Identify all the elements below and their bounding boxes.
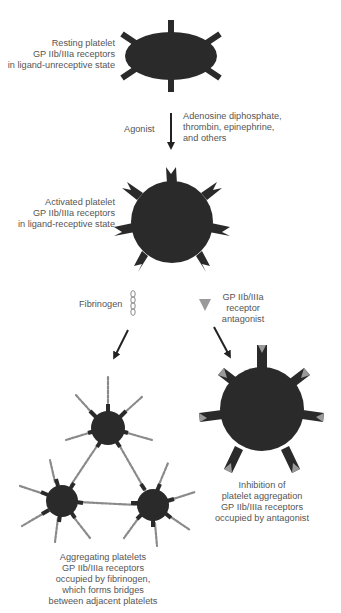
inhibited-platelet — [199, 345, 324, 473]
resting-platelet-label: Resting platelet GP IIb/IIIa receptors i… — [8, 38, 115, 71]
antagonist-arrow — [214, 327, 229, 355]
fibrinogen-arrow — [115, 330, 128, 356]
inhibition-label: Inhibition of platelet aggregation GP II… — [212, 480, 312, 524]
fibrinogen-label: Fibrinogen — [79, 299, 122, 310]
activated-platelet — [114, 167, 230, 272]
antagonist-label: GP IIb/IIIa receptor antagonist — [218, 292, 268, 325]
aggregating-platelets — [20, 377, 195, 546]
chain-links-icon — [131, 291, 135, 316]
aggregating-platelets-label: Aggregating platelets GP IIb/IIIa recept… — [38, 552, 168, 607]
inverted-triangle-icon — [199, 299, 211, 311]
agonist-label: Agonist — [124, 124, 155, 135]
activated-platelet-label: Activated platelet GP IIb/IIIa receptors… — [18, 197, 115, 230]
resting-platelet — [122, 20, 220, 92]
agonist-examples-label: Adenosine diphosphate, thrombin, epineph… — [183, 111, 282, 144]
